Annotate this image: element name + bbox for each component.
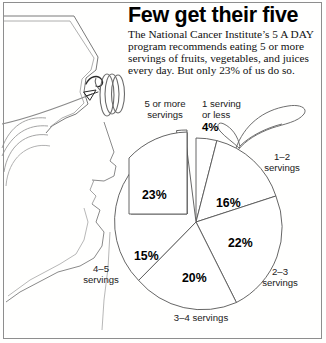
pie-value-five-or-more-servings: 23% [142, 188, 167, 202]
glasses-lens-spiral [95, 74, 124, 116]
pie-label-one-serving-or-less: 1 serving or less [202, 98, 268, 120]
pie-label-five-or-more-servings: 5 or more servings [128, 98, 202, 120]
pie-value-one-two-servings: 16% [216, 196, 241, 210]
page-title: Few get their five [128, 4, 314, 27]
pie-label-four-five-servings: 4–5 servings [68, 263, 134, 285]
pie-label-two-three-servings: 2–3 servings [249, 266, 311, 288]
pie-label-three-four-servings: 3–4 servings [155, 312, 247, 323]
deck-paragraph: The National Cancer Institute’s 5 A DAY … [128, 29, 314, 77]
pie-value-four-five-servings: 15% [134, 249, 159, 263]
pie-value-two-three-servings: 22% [228, 236, 253, 250]
pie-value-three-four-servings: 20% [182, 271, 207, 285]
infographic-page: Few get their five The National Cancer I… [0, 0, 326, 343]
pie-label-one-two-servings: 1–2 servings [252, 151, 312, 173]
pie-value-one-serving-or-less: 4% [202, 121, 218, 133]
